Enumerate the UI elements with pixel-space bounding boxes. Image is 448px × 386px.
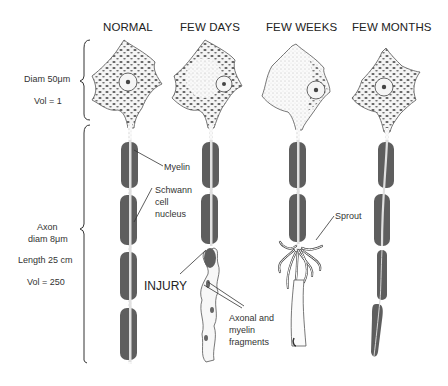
neuron-normal	[92, 40, 163, 364]
neuron-illustration	[0, 0, 448, 386]
cell-body-bracket	[80, 40, 90, 120]
neuron-few-weeks	[262, 44, 334, 346]
axon-bracket	[80, 125, 90, 363]
neuron-few-months	[352, 48, 420, 357]
neuron-few-days	[172, 40, 244, 362]
